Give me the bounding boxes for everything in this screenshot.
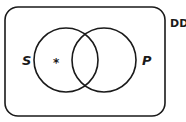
- marker-asterisk: *: [53, 56, 60, 70]
- circle-p: [72, 28, 136, 92]
- universe-label: DD: [170, 17, 186, 30]
- venn-diagram: S * P DD: [0, 0, 186, 122]
- set-label-p: P: [142, 53, 152, 68]
- set-label-s: S: [22, 53, 31, 68]
- circle-s: [34, 28, 98, 92]
